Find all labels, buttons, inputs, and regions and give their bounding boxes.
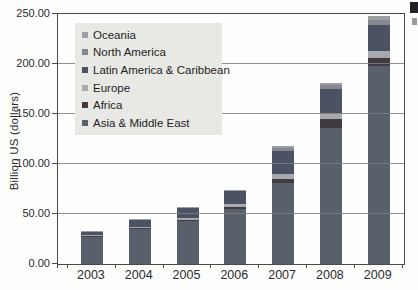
bar-segment: [272, 146, 294, 148]
bar-segment: [177, 220, 199, 222]
bar-segment: [177, 221, 199, 264]
bar-segment: [81, 232, 103, 236]
bar-segment: [129, 227, 151, 228]
gridline: [58, 163, 404, 164]
legend-swatch: [82, 32, 88, 38]
bar-segment: [129, 220, 151, 227]
legend-label: Asia & Middle East: [93, 117, 190, 129]
bar: [224, 14, 246, 264]
bar-segment: [129, 228, 151, 229]
legend-swatch: [82, 85, 88, 91]
bar-segment: [81, 236, 103, 237]
bar-segment: [177, 218, 199, 220]
legend-item: Asia & Middle East: [82, 117, 222, 129]
bar-segment: [272, 183, 294, 264]
bar-segment: [129, 219, 151, 220]
bar-segment: [368, 20, 390, 25]
bar: [320, 14, 342, 264]
bar-segment: [129, 219, 151, 220]
bar-segment: [224, 190, 246, 191]
bar-segment: [320, 83, 342, 85]
legend-item: Latin America & Caribbean: [82, 64, 222, 76]
x-tick-label: 2008: [306, 268, 354, 282]
bar: [368, 14, 390, 264]
y-axis-tick: [52, 163, 57, 164]
y-tick-label: 150.00: [4, 108, 50, 119]
legend-label: Oceania: [93, 29, 136, 41]
legend-item: North America: [82, 46, 222, 58]
bar-segment: [320, 89, 342, 113]
legend-swatch: [82, 49, 88, 55]
x-tick-label: 2007: [258, 268, 306, 282]
y-axis-tick: [52, 63, 57, 64]
legend-item: Africa: [82, 99, 222, 111]
bar-segment: [177, 207, 199, 208]
y-axis-tick: [52, 213, 57, 214]
y-tick-label: 0.00: [4, 258, 50, 269]
bar-segment: [224, 191, 246, 204]
legend-swatch: [82, 67, 88, 73]
y-tick-label: 250.00: [4, 8, 50, 19]
figure: Billion US (dollars) 0.0050.00100.00150.…: [0, 0, 418, 290]
bar-segment: [368, 66, 390, 264]
bar-segment: [177, 207, 199, 208]
bar-segment: [224, 190, 246, 191]
bar: [272, 14, 294, 264]
legend-label: North America: [93, 46, 166, 58]
bar-segment: [81, 237, 103, 264]
y-tick-label: 100.00: [4, 158, 50, 169]
legend-label: Latin America & Caribbean: [93, 64, 230, 76]
bar-segment: [81, 235, 103, 236]
legend-swatch: [82, 102, 88, 108]
gridline: [58, 213, 404, 214]
bar-segment: [224, 209, 246, 264]
bar-segment: [272, 179, 294, 183]
page-edge-artifact-light: [412, 18, 417, 25]
bar-segment: [368, 51, 390, 58]
bar-segment: [81, 231, 103, 232]
legend-item: Oceania: [82, 29, 222, 41]
x-axis-corner-tick: [57, 264, 58, 268]
legend-label: Europe: [93, 82, 130, 94]
bar-segment: [272, 174, 294, 179]
bar-segment: [224, 207, 246, 210]
bar-segment: [320, 85, 342, 89]
y-tick-label: 50.00: [4, 208, 50, 219]
bar-segment: [368, 25, 390, 51]
legend: OceaniaNorth AmericaLatin America & Cari…: [75, 23, 222, 135]
y-axis-tick: [52, 13, 57, 14]
y-tick-label: 200.00: [4, 58, 50, 69]
legend-label: Africa: [93, 99, 122, 111]
x-axis-tick: [402, 264, 403, 268]
legend-swatch: [82, 120, 88, 126]
x-tick-label: 2006: [210, 268, 258, 282]
bar-segment: [129, 229, 151, 264]
x-tick-label: 2004: [115, 268, 163, 282]
bar-segment: [368, 58, 390, 66]
y-axis-tick: [52, 113, 57, 114]
bar-segment: [320, 119, 342, 128]
x-tick-label: 2005: [163, 268, 211, 282]
x-tick-label: 2003: [67, 268, 115, 282]
bar-segment: [368, 16, 390, 20]
page-edge-artifact-dark: [410, 2, 418, 13]
x-tick-label: 2009: [354, 268, 402, 282]
legend-item: Europe: [82, 82, 222, 94]
bar-segment: [224, 204, 246, 207]
bar-segment: [320, 128, 342, 264]
bar-segment: [272, 148, 294, 151]
